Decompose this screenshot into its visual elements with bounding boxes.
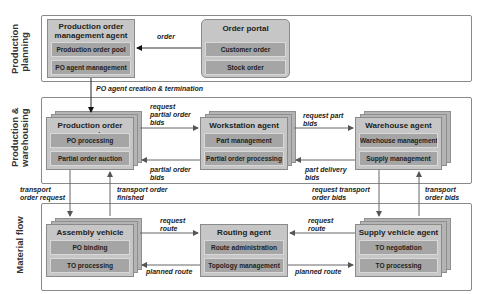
supply-vehicle-agent[interactable]: Supply vehicle agent TO negotiation TO p… (355, 224, 442, 277)
label-request-partial-order-bids: request partial order bids (150, 103, 191, 127)
label-order: order (157, 33, 175, 41)
production-order-agent[interactable]: Production order agent PO processing Par… (46, 117, 134, 170)
sub-part-management: Part management (204, 133, 284, 148)
sub-warehouse-management: Warehouse management (359, 133, 438, 148)
workstation-agent[interactable]: Workstation agent Part management Partia… (200, 117, 288, 170)
label-request-route-right: request route (308, 217, 333, 233)
sub-route-administration: Route administration (204, 240, 284, 255)
routing-agent-title: Routing agent (201, 228, 287, 237)
sub-to-processing: TO processing (50, 258, 130, 273)
routing-agent[interactable]: Routing agent Route administration Topol… (200, 224, 288, 277)
label-planned-route-left: planned route (146, 268, 192, 276)
label-request-route-left: request route (160, 217, 185, 233)
warehouse-agent[interactable]: Warehouse agent Warehouse management Sup… (355, 117, 442, 170)
sub-production-order-pool: Production order pool (51, 42, 131, 57)
order-portal-title: Order portal (202, 24, 289, 33)
warehouse-agent-title: Warehouse agent (356, 121, 441, 130)
sub-to-negotiation: TO negotiation (359, 240, 438, 255)
sub-topology-management: Topology management (204, 258, 284, 273)
po-management-title: Production order management agent (48, 22, 134, 40)
label-request-transport-order-bids: request transport order bids (312, 186, 370, 202)
sub-po-processing: PO processing (50, 133, 130, 148)
layer-label-production-warehousing: Production & warehousing (10, 115, 30, 167)
sub-partial-order-processing: Partial order processing (204, 151, 284, 166)
workstation-agent-title: Workstation agent (201, 121, 287, 130)
label-partial-order-bids: partial order bids (150, 166, 191, 182)
po-management-agent[interactable]: Production order management agent Produc… (47, 19, 135, 78)
sub-po-agent-management: PO agent management (51, 60, 131, 75)
sub-po-binding: PO binding (50, 240, 130, 255)
label-request-part-bids: request part bids (303, 112, 343, 128)
order-portal[interactable]: Order portal Customer order Stock order (201, 19, 290, 78)
sub-to-processing-supply: TO processing (359, 258, 438, 273)
sub-customer-order: Customer order (205, 42, 286, 57)
label-po-agent-creation: PO agent creation & termination (96, 85, 203, 93)
sub-supply-management: Supply management (359, 151, 438, 166)
assembly-vehicle-agent[interactable]: Assembly vehicle agent PO binding TO pro… (46, 224, 134, 277)
layer-label-material-flow: Material flow (15, 215, 25, 275)
sub-stock-order: Stock order (205, 60, 286, 75)
sub-partial-order-auction: Partial order auction (50, 151, 130, 166)
label-transport-order-finished: transport order finished (117, 186, 168, 202)
label-transport-order-bids: transport order bids (425, 186, 459, 202)
supply-vehicle-agent-title: Supply vehicle agent (356, 228, 441, 237)
layer-label-production-planning: Production planning (10, 30, 30, 74)
label-part-delivery-bids: part delivery bids (305, 166, 347, 182)
label-transport-order-request: transport order request (20, 186, 65, 202)
label-planned-route-right: planned route (295, 268, 341, 276)
